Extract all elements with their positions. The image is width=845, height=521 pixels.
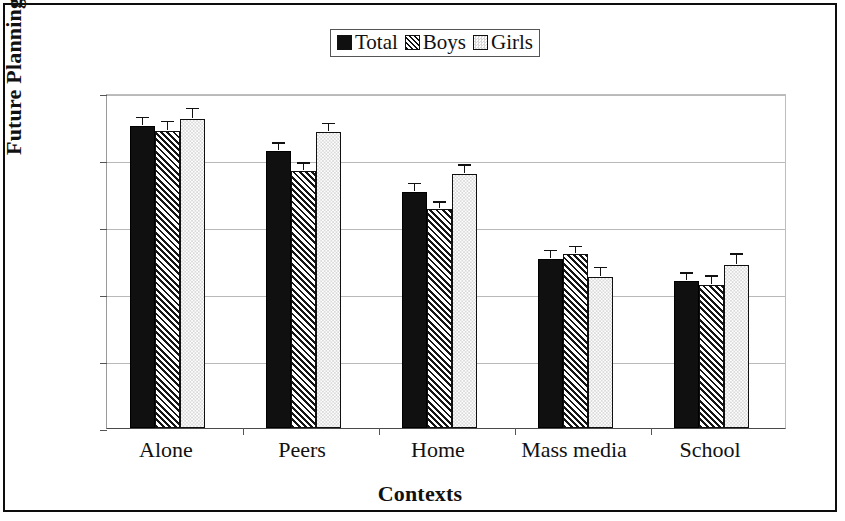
error-bar: [686, 274, 687, 280]
error-bar-cap: [680, 272, 693, 274]
error-bar: [550, 251, 551, 258]
bar-total-peers: [266, 151, 291, 428]
bar-girls-mass-media: [588, 277, 613, 428]
error-bar: [278, 144, 279, 150]
x-tick-label: Mass media: [521, 437, 627, 463]
x-tick-label: Home: [411, 437, 465, 463]
error-bar: [464, 166, 465, 173]
y-tick-mark: [100, 95, 107, 96]
error-bar: [328, 124, 329, 131]
bar-girls-peers: [316, 132, 341, 428]
error-bar: [142, 118, 143, 125]
bar-boys-peers: [291, 171, 316, 428]
error-bar-cap: [544, 250, 557, 252]
bar-boys-mass-media: [563, 254, 588, 428]
legend-item-boys: Boys: [405, 32, 466, 53]
x-tick-mark: [243, 428, 244, 435]
bar-total-school: [674, 281, 699, 428]
error-bar: [192, 109, 193, 118]
bar-girls-alone: [180, 119, 205, 428]
bar-total-alone: [130, 126, 155, 428]
bar-total-home: [402, 192, 427, 429]
y-tick-mark: [100, 430, 107, 431]
bar-boys-home: [427, 209, 452, 428]
x-tick-label: Peers: [278, 437, 326, 463]
x-tick-mark: [651, 428, 652, 435]
bar-group: [651, 95, 787, 428]
error-bar-cap: [297, 162, 310, 164]
error-bar-cap: [433, 201, 446, 203]
error-bar-cap: [458, 164, 471, 166]
bar-boys-alone: [155, 131, 180, 428]
y-tick-mark: [100, 296, 107, 297]
y-axis-title: Future Planning: [1, 0, 27, 155]
legend-label-girls: Girls: [491, 32, 533, 53]
x-tick-mark: [515, 428, 516, 435]
bar-girls-school: [724, 265, 749, 428]
bar-group: [243, 95, 379, 428]
error-bar: [600, 268, 601, 275]
legend-swatch-boys-icon: [405, 35, 420, 50]
legend-label-boys: Boys: [423, 32, 466, 53]
error-bar-cap: [705, 275, 718, 277]
legend-item-total: Total: [337, 32, 398, 53]
chart-legend: Total Boys Girls: [330, 29, 540, 57]
legend-swatch-girls-icon: [473, 35, 488, 50]
error-bar-cap: [569, 246, 582, 248]
error-bar-cap: [186, 108, 199, 110]
x-tick-label: Alone: [139, 437, 193, 463]
error-bar: [439, 203, 440, 208]
y-tick-mark: [100, 229, 107, 230]
error-bar-cap: [594, 267, 607, 269]
figure-frame: Total Boys Girls Future Planning 012345 …: [3, 3, 837, 512]
x-axis-title: Contexts: [5, 481, 835, 507]
x-tick-mark: [379, 428, 380, 435]
error-bar-cap: [322, 123, 335, 125]
legend-label-total: Total: [355, 32, 398, 53]
error-bar: [736, 255, 737, 264]
error-bar: [575, 247, 576, 253]
bar-total-mass-media: [538, 259, 563, 428]
bar-boys-school: [699, 285, 724, 428]
y-tick-mark: [100, 162, 107, 163]
legend-item-girls: Girls: [473, 32, 533, 53]
error-bar-cap: [408, 183, 421, 185]
bar-group: [107, 95, 243, 428]
error-bar-cap: [272, 142, 285, 144]
error-bar: [167, 122, 168, 130]
error-bar: [414, 184, 415, 190]
legend-swatch-total-icon: [337, 35, 352, 50]
plot-area: 012345: [106, 94, 786, 429]
y-tick-mark: [100, 363, 107, 364]
bar-group: [379, 95, 515, 428]
error-bar: [303, 164, 304, 170]
bar-group: [515, 95, 651, 428]
error-bar-cap: [136, 117, 149, 119]
bar-girls-home: [452, 174, 477, 428]
x-tick-label: School: [679, 437, 740, 463]
error-bar-cap: [730, 253, 743, 255]
error-bar-cap: [161, 121, 174, 123]
error-bar: [711, 277, 712, 284]
